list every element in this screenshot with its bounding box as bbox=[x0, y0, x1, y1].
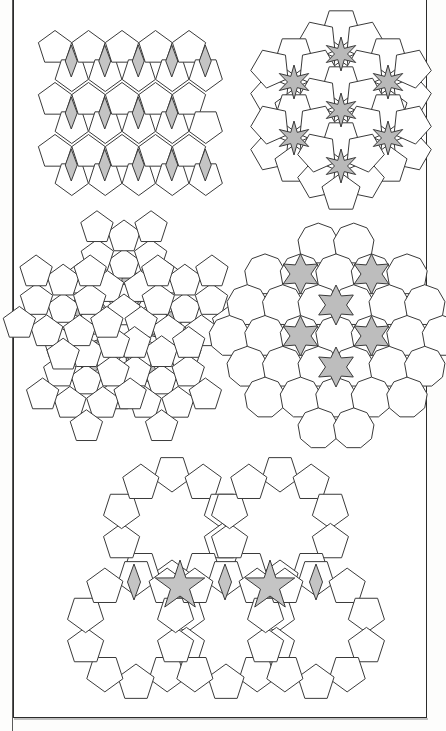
tile-pentagon bbox=[81, 211, 113, 242]
figure-2-canvas bbox=[248, 20, 434, 190]
tile-pentagon bbox=[154, 458, 190, 492]
tile-pentagon bbox=[87, 658, 123, 692]
tile-pentagon bbox=[329, 568, 365, 602]
tile-pentagon bbox=[293, 464, 329, 498]
tile-pentagon bbox=[123, 464, 159, 498]
figure-3-pentagon-pinwheel-tiling bbox=[22, 216, 226, 442]
figure-2-pentagon-star-tiling bbox=[248, 20, 434, 190]
plate-page bbox=[0, 0, 446, 731]
figure-1-pentagon-rhombus-tiling bbox=[33, 24, 215, 188]
tile-pentagon bbox=[104, 494, 140, 528]
tile-pentagon bbox=[118, 664, 154, 698]
tile-pentagon bbox=[177, 658, 213, 692]
tile-nonagon bbox=[387, 377, 427, 417]
tile-pentagon bbox=[251, 50, 288, 88]
figure-4-canvas bbox=[238, 236, 434, 436]
figure-4-nonagon-star-packing bbox=[238, 236, 434, 436]
tile-pentagon bbox=[196, 255, 228, 286]
tile-pentagon bbox=[251, 106, 288, 144]
tile-pentagon bbox=[20, 255, 52, 286]
tile-pentagon bbox=[262, 458, 298, 492]
plate-frame-shadow bbox=[14, 718, 428, 720]
tile-pentagon bbox=[394, 50, 431, 88]
tile-nonagon bbox=[334, 408, 374, 448]
tile-pentagon bbox=[185, 464, 221, 498]
figure-3-canvas bbox=[22, 216, 226, 442]
figure-5-canvas bbox=[84, 460, 368, 694]
figure-5-decagon-ring-tiling bbox=[84, 460, 368, 694]
tile-pentagon bbox=[87, 568, 123, 602]
tile-pentagon bbox=[329, 658, 365, 692]
tile-pentagon bbox=[20, 284, 52, 315]
tile-pentagon bbox=[231, 464, 267, 498]
tile-nonagon bbox=[298, 408, 338, 448]
tile-nonagon bbox=[245, 377, 285, 417]
tile-pentagon bbox=[195, 284, 227, 315]
tile-pentagon bbox=[298, 664, 334, 698]
tile-pentagon bbox=[135, 211, 167, 242]
tile-pentagon bbox=[394, 106, 431, 144]
tile-pentagon bbox=[208, 664, 244, 698]
tile-pentagon bbox=[267, 658, 303, 692]
tile-pentagon bbox=[312, 523, 348, 557]
figure-1-canvas bbox=[33, 24, 215, 188]
